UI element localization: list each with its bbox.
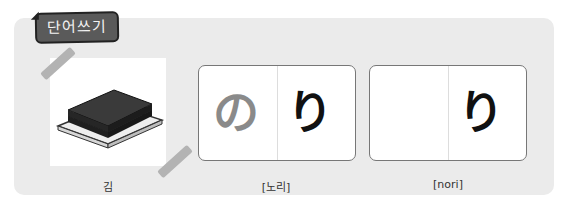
section-title-tag: 단어쓰기 bbox=[35, 11, 120, 43]
stacked-seaweed-sheets-icon bbox=[50, 58, 166, 166]
seaweed-image bbox=[50, 58, 166, 166]
kana-right: り bbox=[287, 89, 333, 135]
kana-card-writing[interactable]: り bbox=[369, 65, 527, 161]
pronunciation-korean: [노리] bbox=[236, 178, 316, 194]
word-caption-korean: 김 bbox=[88, 178, 128, 194]
card-divider bbox=[448, 66, 449, 160]
kana-left-hint: の bbox=[213, 89, 259, 135]
kana-right: り bbox=[458, 89, 504, 135]
card-divider bbox=[277, 66, 278, 160]
kana-card-tracing[interactable]: の り bbox=[198, 65, 356, 161]
pronunciation-romaji: [nori] bbox=[408, 178, 488, 191]
